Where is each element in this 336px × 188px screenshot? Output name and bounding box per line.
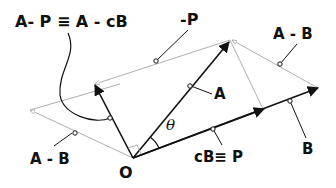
label-theta: θ <box>166 118 175 133</box>
label-origin: O <box>119 165 133 181</box>
label-cb-p: cB≡ P <box>194 150 243 165</box>
leader-cb <box>213 129 222 145</box>
label-a-minus-b-left: A - B <box>30 152 70 167</box>
guide-perp <box>230 40 263 109</box>
theta-arc <box>150 137 159 148</box>
leader-a-minus-b-left <box>54 133 72 146</box>
guide-a-minus-b-right <box>232 40 318 88</box>
vector-a-minus-p <box>95 85 133 158</box>
label-a-minus-p: A- P ≡ A - cB <box>15 14 128 30</box>
guide-neg-p-top <box>95 40 230 84</box>
label-b: B <box>302 142 313 157</box>
leader-neg-p <box>156 30 188 61</box>
label-a-minus-b-top: A - B <box>273 27 313 42</box>
leader-a <box>191 86 212 94</box>
label-neg-p: -P <box>180 12 198 28</box>
leader-a-minus-b-top <box>280 44 297 64</box>
label-a: A <box>214 87 226 102</box>
leader-b <box>290 101 306 138</box>
leader-a-minus-p <box>60 33 110 120</box>
